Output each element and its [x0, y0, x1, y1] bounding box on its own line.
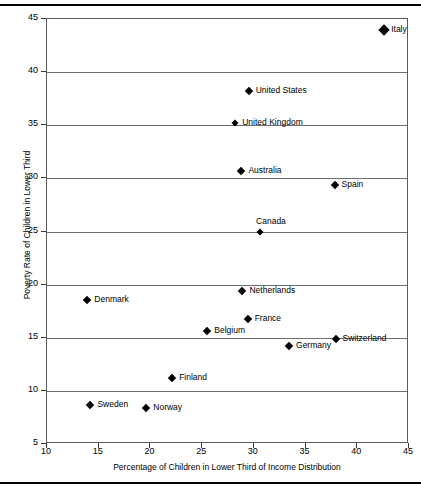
data-point-label: Sweden: [97, 400, 128, 409]
diamond-marker-icon: [142, 404, 150, 412]
y-axis-tick-label: 45: [4, 13, 38, 22]
data-point-label: Switzerland: [343, 334, 387, 343]
x-axis-tick-label: 35: [285, 446, 325, 456]
gridline: [47, 391, 407, 392]
diamond-marker-icon: [244, 87, 252, 95]
x-axis-tick-label: 25: [181, 446, 221, 456]
x-axis-tick-label: 20: [129, 446, 169, 456]
data-point-label: Norway: [153, 403, 182, 412]
diamond-marker-icon: [257, 228, 264, 235]
data-point-label: Germany: [296, 341, 331, 350]
y-axis-tick-label: 20: [4, 279, 38, 288]
data-point-label: Belgium: [214, 326, 245, 335]
data-point-label: Denmark: [94, 295, 128, 304]
diamond-marker-icon: [83, 295, 91, 303]
diamond-marker-icon: [285, 342, 293, 350]
data-point-label: United States: [256, 86, 307, 95]
diamond-marker-icon: [203, 327, 211, 335]
y-axis-tick-label: 25: [4, 226, 38, 235]
data-point-label: Italy: [391, 25, 407, 34]
gridline: [47, 125, 407, 126]
diamond-marker-icon: [237, 167, 245, 175]
x-axis-title: Percentage of Children in Lower Third of…: [46, 462, 408, 472]
data-point-label: Canada: [256, 217, 286, 226]
y-axis-tick-label: 10: [4, 385, 38, 394]
x-axis-tick-label: 10: [26, 446, 66, 456]
x-axis-tick-label: 30: [233, 446, 273, 456]
plot-area: ItalyUnited StatesUnited KingdomAustrali…: [46, 18, 408, 443]
gridline: [47, 285, 407, 286]
diamond-marker-icon: [331, 335, 339, 343]
y-axis-title: Poverty Rate of Children in Lower Third: [22, 110, 32, 340]
diamond-marker-icon: [243, 314, 251, 322]
diamond-marker-icon: [379, 24, 390, 35]
data-point-label: France: [255, 314, 281, 323]
diamond-marker-icon: [86, 400, 94, 408]
data-point-label: Finland: [179, 373, 207, 382]
y-axis-tick-label: 15: [4, 332, 38, 341]
x-axis-tick-label: 45: [388, 446, 421, 456]
diamond-marker-icon: [168, 374, 176, 382]
scatter-plot-figure: 51015202530354045 1015202530354045 Italy…: [0, 0, 421, 487]
diamond-marker-icon: [330, 181, 338, 189]
x-axis-tick-label: 15: [78, 446, 118, 456]
data-point-label: Australia: [248, 166, 281, 175]
data-point-label: Spain: [342, 180, 364, 189]
figure-top-rule: [0, 4, 421, 6]
y-axis-tick-label: 30: [4, 172, 38, 181]
data-point-label: Netherlands: [249, 286, 295, 295]
gridline: [47, 232, 407, 233]
data-point-label: United Kingdom: [242, 118, 302, 127]
y-axis-tick-label: 35: [4, 119, 38, 128]
y-axis-tick-label: 40: [4, 66, 38, 75]
gridline: [47, 72, 407, 73]
figure-bottom-rule: [0, 482, 421, 484]
diamond-marker-icon: [238, 287, 246, 295]
x-axis-tick-label: 40: [336, 446, 376, 456]
